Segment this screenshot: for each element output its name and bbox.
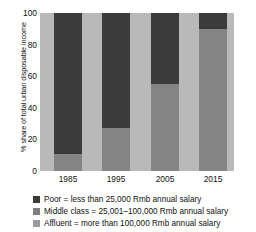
legend-swatch-affluent (33, 220, 40, 227)
bar-segment-poor-2015 (199, 13, 227, 29)
legend-label-middle-class: Middle class = 25,001–100,000 Rmb annual… (44, 206, 228, 217)
y-tick-100: 100 (15, 9, 37, 17)
x-tick-1985: 1985 (45, 175, 91, 184)
bar-segment-poor-1995 (102, 13, 130, 128)
bar-segment-middle-2015 (199, 29, 227, 171)
bar-1985 (54, 13, 82, 171)
y-tick-80: 80 (15, 41, 37, 49)
y-tick-40: 40 (15, 104, 37, 112)
bar-2015 (199, 13, 227, 171)
x-tick-2005: 2005 (142, 175, 188, 184)
bar-segment-middle-1995 (102, 128, 130, 171)
x-tick-1995: 1995 (93, 175, 139, 184)
legend-swatch-poor (33, 196, 40, 203)
bar-segment-poor-2005 (151, 13, 179, 84)
bar-segment-middle-1985 (54, 154, 82, 171)
legend-item-poor: Poor = less than 25,000 Rmb annual salar… (33, 194, 256, 206)
x-tick-2015: 2015 (190, 175, 236, 184)
y-tick-60: 60 (15, 72, 37, 80)
legend-swatch-middle (33, 208, 40, 215)
y-tick-0: 0 (15, 167, 37, 175)
legend-item-middle-class: Middle class = 25,001–100,000 Rmb annual… (33, 206, 256, 218)
legend-label-affluent: Affluent = more than 100,000 Rmb annual … (44, 218, 220, 229)
y-axis-tick-labels: 100 80 60 40 20 0 (11, 13, 37, 171)
bar-2005 (151, 13, 179, 171)
bar-1995 (102, 13, 130, 171)
stacked-bar-chart-figure: % share of total urban disposable income… (0, 0, 256, 232)
x-axis-tick-labels: 1985 1995 2005 2015 (40, 175, 234, 187)
plot-area (40, 13, 234, 171)
legend-item-affluent: Affluent = more than 100,000 Rmb annual … (33, 218, 256, 230)
y-tick-20: 20 (15, 135, 37, 143)
chart-legend: Poor = less than 25,000 Rmb annual salar… (33, 194, 256, 230)
legend-label-poor: Poor = less than 25,000 Rmb annual salar… (44, 194, 201, 205)
bar-segment-poor-1985 (54, 13, 82, 154)
bar-segment-middle-2005 (151, 84, 179, 171)
